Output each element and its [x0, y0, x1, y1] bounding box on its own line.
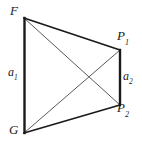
vertex-label-p1-subscript: 1: [125, 38, 129, 47]
vertex-label-p1-base: P: [117, 28, 125, 43]
side-label-a2-subscript: 2: [129, 77, 133, 86]
side-label-a2: a2: [123, 70, 133, 85]
vertex-label-p2-base: P: [117, 100, 125, 115]
vertex-label-f: F: [10, 4, 18, 17]
vertex-label-p1: P1: [117, 29, 129, 46]
side-top-F-to-P1: [24, 18, 120, 50]
vertex-label-p2-subscript: 2: [125, 110, 129, 119]
geometry-figure: F G P1 P2 a1 a2: [0, 0, 142, 151]
figure-canvas: [0, 0, 142, 151]
vertex-label-g: G: [9, 123, 18, 136]
side-label-a1: a1: [8, 66, 18, 81]
side-bottom-G-to-P2: [24, 105, 120, 133]
vertex-label-p2: P2: [117, 101, 129, 118]
side-label-a1-subscript: 1: [14, 73, 18, 82]
